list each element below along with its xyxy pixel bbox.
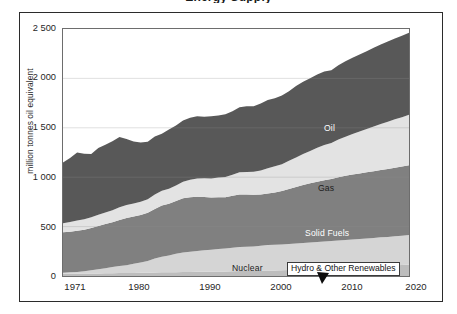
y-tick-2000: 2 000: [10, 72, 56, 82]
x-tick-2020: 2020: [405, 281, 426, 292]
y-tick-500: 500: [10, 222, 56, 232]
plot-area: [62, 28, 410, 277]
series-label-oil: Oil: [324, 123, 335, 133]
y-tick-1000: 1 000: [10, 172, 56, 182]
x-tick-2010: 2010: [341, 281, 362, 292]
area-series-group: [63, 33, 409, 276]
stacked-area-svg: [63, 29, 409, 276]
series-label-renewables: Hydro & Other Renewables: [287, 262, 400, 276]
series-label-solid-fuels: Solid Fuels: [305, 228, 349, 238]
y-tick-2500: 2 500: [10, 23, 56, 33]
series-label-nuclear: Nuclear: [232, 263, 263, 273]
x-tick-1990: 1990: [199, 281, 220, 292]
figure-title: Energy Supply: [0, 0, 457, 3]
x-axis-ticks: 1971 1980 1990 2000 2010 2020: [62, 281, 414, 299]
y-tick-0: 0: [10, 271, 56, 281]
series-label-gas: Gas: [318, 183, 334, 193]
y-tick-1500: 1 500: [10, 122, 56, 132]
chart-figure: Energy Supply million tonnes oil equival…: [0, 0, 457, 314]
x-tick-1971: 1971: [64, 281, 85, 292]
x-tick-2000: 2000: [270, 281, 291, 292]
y-axis-ticks: 2 500 2 000 1 500 1 000 500 0: [8, 0, 56, 314]
x-tick-1980: 1980: [128, 281, 149, 292]
